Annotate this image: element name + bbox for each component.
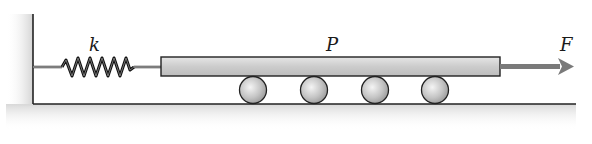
roller-3 bbox=[362, 77, 389, 104]
plate-p bbox=[161, 57, 500, 76]
plate-label: P bbox=[326, 36, 338, 54]
force-label: F bbox=[560, 36, 573, 54]
roller-2 bbox=[301, 77, 328, 104]
ground-hatch bbox=[6, 104, 576, 130]
spring-plate-diagram bbox=[0, 0, 592, 144]
roller-4 bbox=[422, 77, 449, 104]
roller-1 bbox=[240, 77, 267, 104]
spring-constant-label: k bbox=[89, 36, 100, 54]
wall-hatch bbox=[6, 14, 33, 106]
force-arrow-icon bbox=[500, 58, 574, 75]
